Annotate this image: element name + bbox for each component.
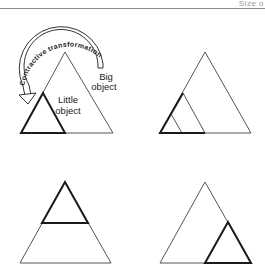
outer-triangle <box>160 52 251 133</box>
panel-top-left: Contractive transformation Big object Li… <box>18 27 117 133</box>
small-triangle <box>160 114 182 133</box>
sierpinski-contraction-diagram: Contractive transformation Big object Li… <box>0 0 265 272</box>
little-object-label-line1: Little <box>58 94 78 105</box>
bold-contraction-edges <box>160 93 205 133</box>
big-object-label-line2: object <box>91 81 117 92</box>
outer-triangle <box>160 182 251 263</box>
top-contracted-triangle <box>42 182 88 223</box>
panel-top-right <box>160 52 251 133</box>
little-object-label-line2: object <box>55 105 81 116</box>
arrow-label: Contractive transformation <box>18 41 103 87</box>
right-contracted-triangle <box>205 222 251 263</box>
panel-bottom-right <box>160 182 251 263</box>
panel-bottom-left <box>20 182 111 263</box>
medium-triangle <box>160 93 205 133</box>
